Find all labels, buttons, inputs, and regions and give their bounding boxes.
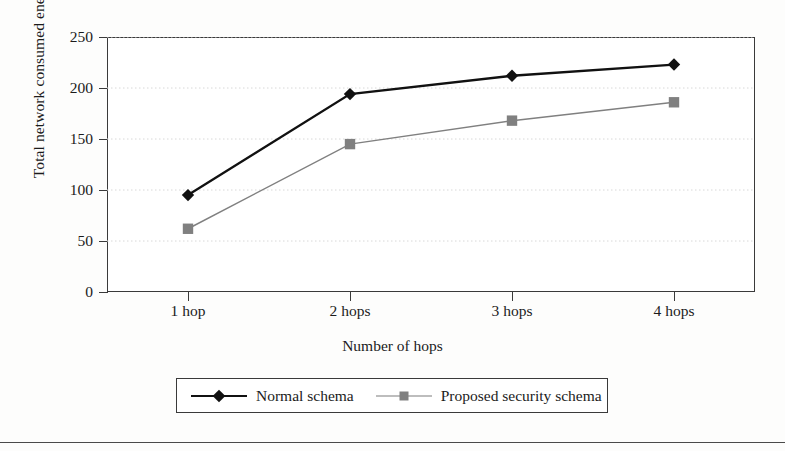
legend-label-proposed: Proposed security schema xyxy=(441,387,602,405)
legend-swatch-proposed xyxy=(376,389,432,403)
series-line xyxy=(188,102,674,228)
x-axis-tick-label: 4 hops xyxy=(614,302,734,320)
x-axis-tick-mark xyxy=(674,292,675,301)
figure-container: Total network consumed energy (J) 050100… xyxy=(0,0,785,451)
data-point-square-marker xyxy=(507,115,517,125)
x-axis-tick-mark xyxy=(512,292,513,301)
y-axis-tick-label: 250 xyxy=(37,28,93,46)
x-axis-tick-label: 1 hop xyxy=(128,302,248,320)
data-point-diamond-marker xyxy=(344,88,356,100)
legend-swatch-normal xyxy=(191,389,247,403)
data-point-diamond-marker xyxy=(668,58,680,70)
series-line xyxy=(188,65,674,196)
data-point-square-marker xyxy=(345,139,355,149)
data-point-square-marker xyxy=(183,224,193,234)
legend-label-normal: Normal schema xyxy=(256,387,354,405)
y-axis-tick-label: 50 xyxy=(37,232,93,250)
x-axis-title: Number of hops xyxy=(0,337,785,355)
data-point-diamond-marker xyxy=(182,189,194,201)
data-point-diamond-marker xyxy=(506,70,518,82)
y-axis-tick-label: 150 xyxy=(37,130,93,148)
diamond-marker-icon xyxy=(213,389,226,402)
page-divider-rule xyxy=(0,442,785,443)
chart-legend: Normal schema Proposed security schema xyxy=(176,378,608,413)
series-normal-schema xyxy=(182,58,680,201)
legend-item-proposed-security-schema: Proposed security schema xyxy=(376,387,602,405)
y-axis-tick-label: 0 xyxy=(37,283,93,301)
x-axis-tick-mark xyxy=(350,292,351,301)
legend-item-normal-schema: Normal schema xyxy=(191,387,354,405)
x-axis-tick-mark xyxy=(188,292,189,301)
series-proposed-security-schema xyxy=(183,97,679,234)
y-axis-tick-label: 200 xyxy=(37,79,93,97)
x-axis-tick-label: 2 hops xyxy=(290,302,410,320)
data-point-square-marker xyxy=(669,97,679,107)
y-axis-tick-mark xyxy=(99,292,108,293)
plot-svg xyxy=(107,37,755,292)
x-axis-tick-label: 3 hops xyxy=(452,302,572,320)
y-axis-tick-label: 100 xyxy=(37,181,93,199)
square-marker-icon xyxy=(399,391,408,400)
